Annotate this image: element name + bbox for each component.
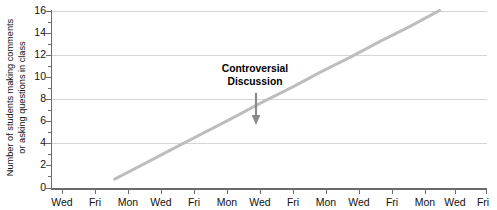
y-tick-label-6: 6: [16, 114, 46, 126]
x-tick-1: [62, 188, 63, 194]
x-tick-8: [293, 188, 294, 194]
y-tick-8: [46, 99, 52, 100]
y-tick-label-10: 10: [16, 70, 46, 82]
y-tick-5: [48, 132, 52, 133]
x-tick-10: [359, 188, 360, 194]
x-tick-3: [128, 188, 129, 194]
x-tick-5: [194, 188, 195, 194]
y-tick-label-4: 4: [16, 136, 46, 148]
gridline-16: [52, 11, 487, 12]
annotation-line-1: Controversial: [190, 62, 320, 75]
x-tick-4: [161, 188, 162, 194]
x-tick-12: [425, 188, 426, 194]
y-tick-label-14: 14: [16, 26, 46, 38]
x-tick-14: [486, 188, 487, 194]
x-tick-6: [227, 188, 228, 194]
y-tick-10: [46, 77, 52, 78]
down-arrow-icon: [251, 93, 261, 125]
y-tick-1: [48, 176, 52, 177]
y-tick-14: [46, 33, 52, 34]
y-tick-4: [46, 143, 52, 144]
y-tick-9: [48, 88, 52, 89]
x-tick-label-14: Fri: [463, 196, 497, 208]
gridline-4: [52, 143, 487, 144]
chart-figure: Number of students making comments or as…: [0, 0, 497, 210]
y-tick-7: [48, 110, 52, 111]
y-tick-label-16: 16: [16, 4, 46, 16]
y-tick-label-8: 8: [16, 92, 46, 104]
x-tick-11: [392, 188, 393, 194]
y-tick-11: [48, 66, 52, 67]
y-tick-0: [46, 188, 52, 189]
gridline-8: [52, 99, 487, 100]
y-tick-3: [48, 154, 52, 155]
y-tick-label-12: 12: [16, 48, 46, 60]
y-tick-label-0: 0: [16, 181, 46, 193]
annotation-line-2: Discussion: [190, 75, 320, 88]
x-tick-9: [326, 188, 327, 194]
x-tick-2: [95, 188, 96, 194]
gridline-12: [52, 55, 487, 56]
x-tick-7: [260, 188, 261, 194]
y-axis-tick-labels: 16 14 12 10 8 6 4 2 0: [14, 0, 46, 200]
y-tick-15: [48, 22, 52, 23]
y-tick-label-2: 2: [16, 158, 46, 170]
x-axis-line: [51, 188, 487, 190]
y-tick-12: [46, 55, 52, 56]
y-tick-2: [46, 165, 52, 166]
x-tick-13: [455, 188, 456, 194]
y-tick-13: [48, 44, 52, 45]
plot-area: [52, 11, 487, 188]
annotation-controversial-discussion: Controversial Discussion: [190, 62, 320, 88]
y-tick-16: [46, 11, 52, 12]
y-tick-6: [46, 121, 52, 122]
